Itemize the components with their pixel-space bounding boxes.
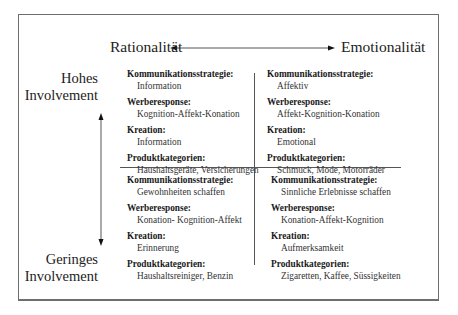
high-involvement-line1: Hohes — [8, 70, 98, 87]
category-value: Affektiv — [267, 80, 417, 92]
category-title: Kreation: — [271, 231, 421, 242]
category-title: Kommunikationsstrategie: — [267, 69, 417, 80]
category-value: Information — [127, 80, 277, 92]
communication-strategy: Kommunikationsstrategie: Gewohnheiten sc… — [127, 175, 277, 198]
communication-strategy: Kommunikationsstrategie: Affektiv — [267, 69, 417, 92]
communication-strategy: Kommunikationsstrategie: Sinnliche Erleb… — [271, 175, 421, 198]
advertising-response: Werberesponse: Affekt-Kognition-Konation — [267, 97, 417, 120]
category-title: Produktkategorien: — [271, 259, 421, 270]
category-value: Aufmerksamkeit — [271, 242, 421, 254]
creation: Kreation: Aufmerksamkeit — [271, 231, 421, 254]
quadrant-low-rational: Kommunikationsstrategie: Gewohnheiten sc… — [127, 175, 277, 287]
rationality-emotionality-arrow-icon — [170, 46, 335, 51]
creation: Kreation: Erinnerung — [127, 231, 277, 254]
category-title: Kommunikationsstrategie: — [127, 175, 277, 186]
product-categories: Produktkategorien: Haushaltsgeräte, Vers… — [127, 153, 277, 176]
category-title: Kreation: — [267, 125, 417, 136]
category-title: Produktkategorien: — [127, 259, 277, 270]
category-value: Information — [127, 136, 277, 148]
creation: Kreation: Information — [127, 125, 277, 148]
category-value: Haushaltsreiniger, Benzin — [127, 270, 277, 282]
category-title: Kommunikationsstrategie: — [271, 175, 421, 186]
creation: Kreation: Emotional — [267, 125, 417, 148]
high-involvement-line2: Involvement — [8, 87, 98, 104]
product-categories: Produktkategorien: Zigaretten, Kaffee, S… — [271, 259, 421, 282]
category-value: Konation-Affekt-Kognition — [271, 214, 421, 226]
emotionality-label: Emotionalität — [341, 38, 425, 56]
category-value: Gewohnheiten schaffen — [127, 186, 277, 198]
category-value: Erinnerung — [127, 242, 277, 254]
product-categories: Produktkategorien: Haushaltsreiniger, Be… — [127, 259, 277, 282]
involvement-arrow-icon — [99, 113, 104, 246]
category-value: Kognition-Affekt-Konation — [127, 108, 277, 120]
advertising-response: Werberesponse: Konation- Kognition-Affek… — [127, 203, 277, 226]
category-title: Kreation: — [127, 125, 277, 136]
category-title: Werberesponse: — [127, 203, 277, 214]
quadrant-high-emotional: Kommunikationsstrategie: Affektiv Werber… — [267, 69, 417, 181]
advertising-response: Werberesponse: Konation-Affekt-Kognition — [271, 203, 421, 226]
category-title: Produktkategorien: — [127, 153, 277, 164]
category-value: Emotional — [267, 136, 417, 148]
category-title: Werberesponse: — [127, 97, 277, 108]
category-value: Zigaretten, Kaffee, Süssigkeiten — [271, 270, 421, 282]
category-title: Werberesponse: — [267, 97, 417, 108]
category-title: Kommunikationsstrategie: — [127, 69, 277, 80]
category-value: Affekt-Kognition-Konation — [267, 108, 417, 120]
quadrant-high-rational: Kommunikationsstrategie: Information Wer… — [127, 69, 277, 181]
category-value: Sinnliche Erlebnisse schaffen — [271, 186, 421, 198]
quadrant-low-emotional: Kommunikationsstrategie: Sinnliche Erleb… — [271, 175, 421, 287]
communication-strategy: Kommunikationsstrategie: Information — [127, 69, 277, 92]
category-title: Produktkategorien: — [267, 153, 417, 164]
category-title: Kreation: — [127, 231, 277, 242]
high-involvement-label: Hohes Involvement — [8, 70, 98, 104]
rationality-label: Rationalität — [110, 38, 182, 56]
low-involvement-label: Geringes Involvement — [8, 251, 98, 285]
low-involvement-line1: Geringes — [8, 251, 98, 268]
product-categories: Produktkategorien: Schmuck, Mode, Motorr… — [267, 153, 417, 176]
advertising-response: Werberesponse: Kognition-Affekt-Konation — [127, 97, 277, 120]
category-value: Konation- Kognition-Affekt — [127, 214, 277, 226]
category-title: Werberesponse: — [271, 203, 421, 214]
low-involvement-line2: Involvement — [8, 268, 98, 285]
